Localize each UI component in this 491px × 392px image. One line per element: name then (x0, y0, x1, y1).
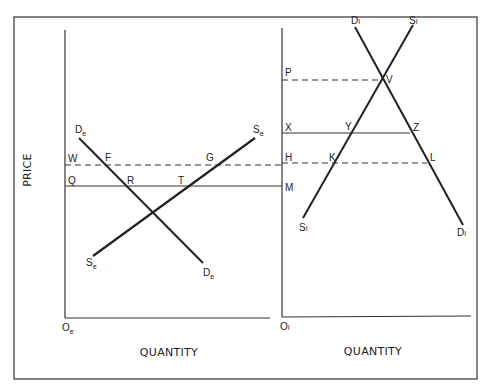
x-axis-label-right: QUANTITY (344, 345, 402, 358)
right-panel: P X H M V Y Z K L DI SI SI DI OI QUANTIT… (280, 15, 471, 358)
label-m: M (285, 182, 293, 193)
label-si-bottom: SI (299, 222, 308, 233)
label-se-bottom: Se (86, 257, 97, 270)
left-panel: W Q F G R T De De Se Se Oe QUANTITY (62, 30, 282, 359)
label-de: De (75, 124, 86, 137)
supply-demand-diagram: PRICE W Q F G R T De De Se Se Oe QUANTIT… (0, 0, 491, 392)
label-g: G (206, 152, 214, 163)
label-se: Se (253, 124, 264, 137)
label-r: R (127, 175, 134, 186)
label-q: Q (68, 175, 76, 186)
label-p: P (285, 67, 292, 78)
demand-curve-i (355, 27, 463, 225)
label-di-bottom: DI (457, 227, 466, 238)
supply-curve-i (303, 25, 413, 218)
label-de-bottom: De (203, 267, 214, 280)
origin-e: Oe (62, 322, 74, 335)
right-x-axis (282, 316, 471, 317)
label-z: Z (413, 122, 419, 133)
supply-curve-e (93, 138, 255, 256)
label-k: K (329, 152, 336, 163)
label-h: H (285, 152, 292, 163)
label-t: T (178, 175, 184, 186)
label-x: X (285, 122, 292, 133)
x-axis-label-left: QUANTITY (140, 346, 198, 359)
y-axis-label: PRICE (21, 153, 34, 187)
demand-curve-e (79, 138, 203, 263)
diagram-frame (14, 17, 477, 379)
origin-i: OI (280, 321, 290, 332)
label-l: L (430, 152, 436, 163)
label-y: Y (345, 121, 352, 132)
label-w: W (68, 153, 78, 164)
label-f: F (105, 152, 111, 163)
label-v: V (386, 74, 393, 85)
